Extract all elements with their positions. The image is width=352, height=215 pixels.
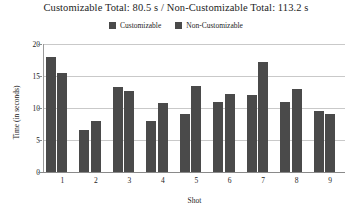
x-tick-label: 9 [318, 176, 342, 185]
y-tick-label: 0 [10, 168, 40, 177]
legend-swatch-non-customizable [175, 22, 182, 29]
bar [146, 121, 156, 172]
legend-label-non-customizable: Non-Customizable [186, 21, 243, 30]
x-axis-title: Shot [44, 196, 345, 205]
bar [57, 73, 67, 172]
x-tick-label: 7 [251, 176, 275, 185]
x-tick-label: 6 [218, 176, 242, 185]
x-tick-label: 3 [117, 176, 141, 185]
legend-swatch-customizable [109, 22, 116, 29]
chart-legend: Customizable Non-Customizable [0, 21, 352, 30]
bar [46, 57, 56, 172]
bar [113, 87, 123, 172]
y-tick-mark [38, 140, 42, 141]
bars-layer [44, 44, 345, 172]
bar [258, 62, 268, 172]
y-tick-mark [38, 76, 42, 77]
bar [280, 102, 290, 172]
legend-label-customizable: Customizable [120, 21, 161, 30]
bar [124, 91, 134, 172]
x-tick-label: 5 [184, 176, 208, 185]
bar [91, 121, 101, 172]
y-axis-title: Time (in seconds) [12, 48, 21, 178]
y-tick-label: 10 [10, 104, 40, 113]
x-tick-label: 8 [285, 176, 309, 185]
y-tick-mark [38, 108, 42, 109]
bar [180, 114, 190, 172]
bar [79, 130, 89, 172]
chart-title: Customizable Total: 80.5 s / Non-Customi… [0, 2, 352, 13]
bar [225, 94, 235, 172]
x-axis-line [42, 172, 345, 173]
bar [325, 114, 335, 172]
bar [292, 89, 302, 172]
bar-chart: Customizable Total: 80.5 s / Non-Customi… [0, 0, 352, 215]
y-tick-label: 15 [10, 72, 40, 81]
x-tick-label: 1 [50, 176, 74, 185]
y-tick-label: 20 [10, 40, 40, 49]
bar [158, 103, 168, 172]
x-tick-label: 2 [84, 176, 108, 185]
legend-entry-customizable: Customizable [109, 21, 161, 30]
bar [247, 95, 257, 172]
bar [191, 86, 201, 172]
x-tick-label: 4 [151, 176, 175, 185]
bar [213, 102, 223, 172]
legend-entry-non-customizable: Non-Customizable [175, 21, 243, 30]
y-tick-mark [38, 44, 42, 45]
y-tick-label: 5 [10, 136, 40, 145]
y-axis: Time (in seconds) 05101520 [0, 0, 40, 215]
bar [314, 111, 324, 172]
